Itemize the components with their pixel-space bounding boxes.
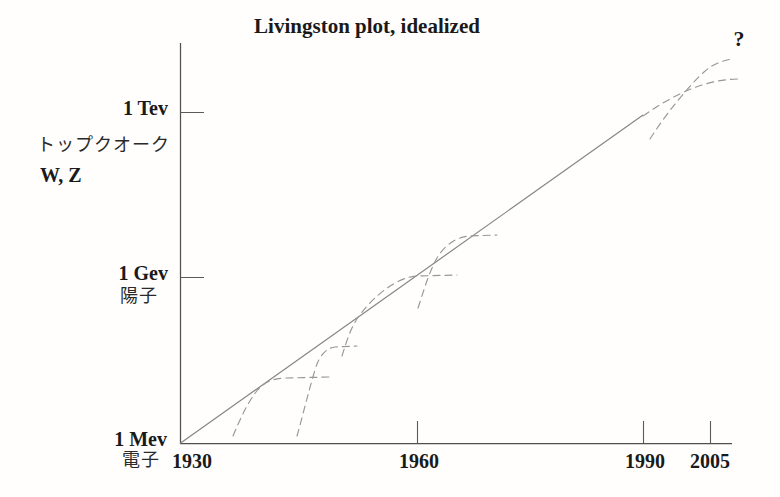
plot-canvas <box>0 0 780 497</box>
label-w-z: W, Z <box>40 165 82 185</box>
s-curve-2 <box>297 346 357 436</box>
label-top-quark: トップクオーク <box>37 136 170 154</box>
s-curve-1 <box>233 377 331 436</box>
x-tick-label-2005: 2005 <box>690 451 730 471</box>
y-tick-label-1mev: 1 Mev <box>114 429 167 449</box>
question-mark-annotation: ? <box>734 28 745 50</box>
x-tick-label-1960: 1960 <box>399 451 439 471</box>
y-tick-label-1tev: 1 Tev <box>123 98 168 118</box>
x-tick-label-1930: 1930 <box>172 451 212 471</box>
chart-title: Livingston plot, idealized <box>254 16 480 37</box>
s-curve-saturating-future <box>643 79 740 116</box>
y-tick-label-1gev: 1 Gev <box>119 263 168 283</box>
x-tick-label-1990: 1990 <box>625 451 665 471</box>
y-axis-ticks <box>180 113 204 278</box>
label-proton: 陽子 <box>120 287 158 305</box>
x-axis-ticks <box>418 421 711 443</box>
s-curve-rising-future <box>650 59 732 139</box>
livingston-plot: Livingston plot, idealized ? 1 Tev トップクオ… <box>0 0 780 497</box>
envelope-line <box>180 115 643 444</box>
xy-axes <box>181 43 733 444</box>
label-electron: 電子 <box>122 451 160 469</box>
